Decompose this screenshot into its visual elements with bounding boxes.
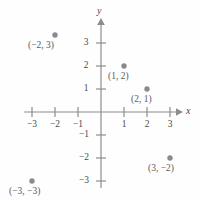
y-axis-group (96, 18, 106, 188)
point-label: (2, 1) (131, 95, 152, 105)
y-tick-label--3: −3 (76, 176, 92, 186)
data-point-dot (52, 32, 57, 37)
x-axis-label: x (186, 106, 190, 116)
y-tick-label-3: 3 (80, 38, 92, 48)
point-label: (3, −2) (148, 164, 174, 174)
x-tick-label--3: −3 (24, 120, 40, 130)
y-tick-label-2: 2 (80, 61, 92, 71)
y-tick-label--1: −1 (76, 130, 92, 140)
point-label: (−2, 3) (28, 41, 54, 51)
x-tick-label-2: 2 (141, 120, 153, 130)
data-point-dot (167, 155, 172, 160)
coordinate-plane-figure: x y −3 −2 −1 1 2 3 3 2 1 −1 −2 −3 (−2, 3… (0, 0, 200, 200)
data-point-dot (121, 63, 126, 68)
x-axis-group (24, 107, 183, 117)
x-tick-label-1: 1 (118, 120, 130, 130)
y-axis-label: y (97, 6, 101, 16)
point-label: (−3, −3) (9, 187, 40, 197)
data-point-dot (144, 86, 149, 91)
point-label: (1, 2) (108, 72, 129, 82)
y-tick-label--2: −2 (76, 153, 92, 163)
data-point-dot (29, 178, 34, 183)
x-tick-label-3: 3 (164, 120, 176, 130)
x-axis-arrowhead (176, 108, 183, 116)
x-tick-label--2: −2 (47, 120, 63, 130)
y-axis-arrowhead (97, 18, 105, 25)
y-tick-label-1: 1 (80, 84, 92, 94)
